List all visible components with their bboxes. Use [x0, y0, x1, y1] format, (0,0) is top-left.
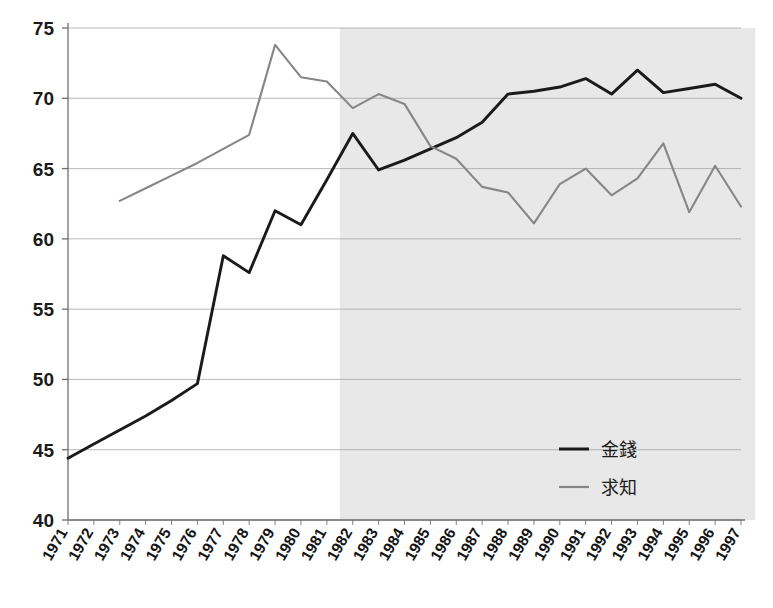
y-axis-label: 45: [33, 440, 55, 461]
line-chart: 4045505560657075 19711972197319741975197…: [0, 0, 773, 608]
legend-label-1: 金錢: [601, 440, 637, 460]
y-axis-label: 70: [33, 88, 54, 109]
y-axis-label: 50: [33, 369, 54, 390]
y-axis-label: 75: [33, 18, 55, 39]
y-axis-label: 60: [33, 229, 54, 250]
shaded-region-rect: [340, 28, 755, 520]
shaded-period-region: [340, 28, 755, 520]
y-axis-label: 65: [33, 159, 55, 180]
chart-container: 4045505560657075 19711972197319741975197…: [0, 0, 773, 608]
y-axis-label: 55: [33, 299, 55, 320]
legend-label-2: 求知: [601, 478, 637, 498]
y-axis-label: 40: [33, 510, 54, 531]
